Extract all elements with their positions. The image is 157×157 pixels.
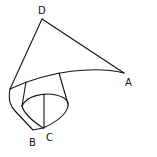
cone-left-side [22,106,43,128]
label-d: D [38,5,46,16]
curve-a-left [10,70,124,89]
label-c: C [46,132,53,143]
edge-d-a [42,19,124,73]
diagram-canvas: D A B C [0,0,157,157]
cone-right-side [43,106,68,128]
label-b: B [29,137,36,148]
label-a: A [125,77,132,88]
cone-rim [22,94,68,106]
inner-line-right [59,73,68,104]
